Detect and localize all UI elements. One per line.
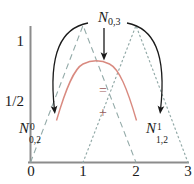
arrow-to-left-basis (53, 23, 88, 110)
x-tick-label-3: 3 (179, 164, 194, 179)
x-tick-label-2: 2 (127, 164, 145, 179)
equals-symbol: = (99, 84, 107, 98)
label-n03: N0,3 (98, 9, 121, 27)
label-n12-superscript: 1 (157, 123, 162, 133)
y-tick-label-1: 1 (2, 34, 24, 49)
label-n03-subscript: 0,3 (108, 16, 121, 27)
x-tick-label-0: 0 (22, 164, 40, 179)
y-tick-label-half: 1/2 (0, 94, 24, 109)
label-n12-subscript: 1,2 (156, 136, 168, 146)
bspline-basis-figure: 1 1/2 0 1 2 3 N0,3 N00,2 N11,2 = + (0, 0, 194, 184)
curve-n02-dashed (31, 26, 137, 163)
label-n02: N00,2 (19, 120, 29, 136)
label-n02-superscript: 0 (30, 123, 35, 133)
label-n02-symbol: N (19, 120, 29, 136)
plot-canvas (0, 0, 194, 184)
label-n02-subscript: 0,2 (29, 136, 41, 146)
x-tick-label-1: 1 (74, 164, 92, 179)
plus-symbol: + (99, 106, 107, 120)
label-n12-symbol: N (146, 120, 156, 136)
curve-n03-solid (57, 61, 137, 121)
label-n03-symbol: N (98, 9, 108, 25)
label-n12: N11,2 (146, 120, 156, 136)
